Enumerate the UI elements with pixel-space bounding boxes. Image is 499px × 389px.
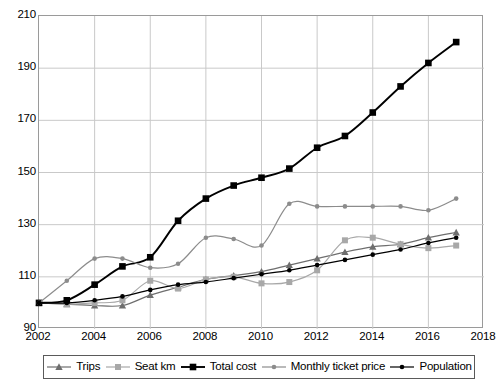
y-axis-tick-label: 190 — [2, 61, 36, 73]
data-point-marker — [175, 217, 182, 224]
data-point-marker — [92, 256, 97, 261]
data-point-marker — [147, 254, 154, 261]
data-point-marker — [314, 267, 320, 273]
data-point-marker — [120, 294, 125, 299]
data-point-marker — [37, 301, 42, 306]
plot-area — [38, 15, 483, 328]
legend-marker-square-icon — [180, 361, 206, 373]
x-axis-tick-label: 2002 — [15, 331, 61, 343]
data-point-marker — [231, 237, 236, 242]
data-point-marker — [204, 235, 209, 240]
data-point-marker — [343, 258, 348, 263]
data-point-marker — [425, 245, 431, 251]
x-axis-tick-label: 2012 — [293, 331, 339, 343]
data-point-marker — [91, 281, 98, 288]
data-point-marker — [453, 229, 460, 236]
data-point-marker — [258, 174, 265, 181]
data-point-marker — [115, 364, 121, 370]
legend-marker-circle-icon — [261, 361, 287, 373]
series-trips — [35, 229, 459, 309]
x-axis: 200220042006200820102012201420162018 — [38, 331, 483, 349]
data-point-marker — [231, 276, 236, 281]
data-point-marker — [370, 235, 376, 241]
legend-item-monthly-ticket-price[interactable]: Monthly ticket price — [261, 361, 385, 373]
y-axis-tick-label: 150 — [2, 166, 36, 178]
series-line — [39, 238, 456, 303]
chart-legend: TripsSeat kmTotal costMonthly ticket pri… — [43, 355, 475, 379]
data-point-marker — [398, 204, 403, 209]
legend-marker-circle-icon — [389, 361, 415, 373]
x-axis-tick-label: 2018 — [460, 331, 499, 343]
series-line — [39, 237, 456, 304]
series-total-cost — [36, 39, 460, 306]
data-point-marker — [453, 39, 460, 46]
x-axis-tick-label: 2006 — [126, 331, 172, 343]
data-point-marker — [259, 243, 264, 248]
data-point-marker — [119, 263, 126, 270]
data-point-marker — [369, 109, 376, 116]
data-point-marker — [230, 182, 237, 189]
x-axis-tick-label: 2010 — [238, 331, 284, 343]
data-point-marker — [454, 235, 459, 240]
series-layer — [39, 16, 484, 329]
series-population — [37, 235, 459, 305]
x-axis-tick-label: 2008 — [182, 331, 228, 343]
data-point-marker — [176, 282, 181, 287]
y-axis-tick-label: 130 — [2, 218, 36, 230]
legend-label: Seat km — [135, 361, 176, 373]
data-point-marker — [203, 195, 210, 202]
data-point-marker — [176, 261, 181, 266]
legend-item-seat-km[interactable]: Seat km — [105, 361, 176, 373]
data-point-marker — [314, 144, 321, 151]
data-point-marker — [287, 268, 292, 273]
series-line — [39, 42, 456, 303]
data-point-marker — [147, 278, 153, 284]
data-point-marker — [454, 196, 459, 201]
data-point-marker — [259, 272, 264, 277]
data-point-marker — [370, 252, 375, 257]
data-point-marker — [370, 204, 375, 209]
data-point-marker — [398, 247, 403, 252]
line-chart: 90110130150170190210 2002200420062008201… — [0, 0, 499, 389]
data-point-marker — [315, 204, 320, 209]
data-point-marker — [92, 298, 97, 303]
x-axis-tick-label: 2016 — [404, 331, 450, 343]
data-point-marker — [342, 237, 348, 243]
data-point-marker — [286, 279, 292, 285]
legend-marker-square-icon — [105, 361, 131, 373]
x-axis-tick-label: 2004 — [71, 331, 117, 343]
legend-label: Population — [419, 361, 471, 373]
legend-item-trips[interactable]: Trips — [46, 361, 100, 373]
series-seat-km — [36, 235, 459, 308]
data-point-marker — [398, 241, 404, 247]
y-axis-tick-label: 110 — [2, 270, 36, 282]
data-point-marker — [426, 208, 431, 213]
data-point-marker — [426, 241, 431, 246]
data-point-marker — [189, 364, 196, 371]
data-point-marker — [453, 243, 459, 249]
data-point-marker — [286, 165, 293, 172]
y-axis-tick-label: 170 — [2, 113, 36, 125]
data-point-marker — [120, 256, 125, 261]
legend-label: Monthly ticket price — [291, 361, 385, 373]
data-point-marker — [397, 83, 404, 90]
data-point-marker — [148, 265, 153, 270]
x-axis-tick-label: 2014 — [349, 331, 395, 343]
legend-label: Total cost — [210, 361, 257, 373]
data-point-marker — [315, 263, 320, 268]
data-point-marker — [400, 365, 405, 370]
legend-item-total-cost[interactable]: Total cost — [180, 361, 257, 373]
data-point-marker — [342, 133, 349, 140]
legend-item-population[interactable]: Population — [389, 361, 471, 373]
y-axis: 90110130150170190210 — [0, 0, 36, 343]
series-line — [39, 232, 456, 306]
data-point-marker — [271, 365, 276, 370]
data-point-marker — [65, 278, 70, 283]
data-point-marker — [343, 204, 348, 209]
legend-marker-triangle-icon — [46, 361, 72, 373]
data-point-marker — [65, 301, 70, 306]
data-point-marker — [148, 288, 153, 293]
data-point-marker — [425, 60, 432, 67]
legend-label: Trips — [76, 361, 100, 373]
y-axis-tick-label: 210 — [2, 9, 36, 21]
